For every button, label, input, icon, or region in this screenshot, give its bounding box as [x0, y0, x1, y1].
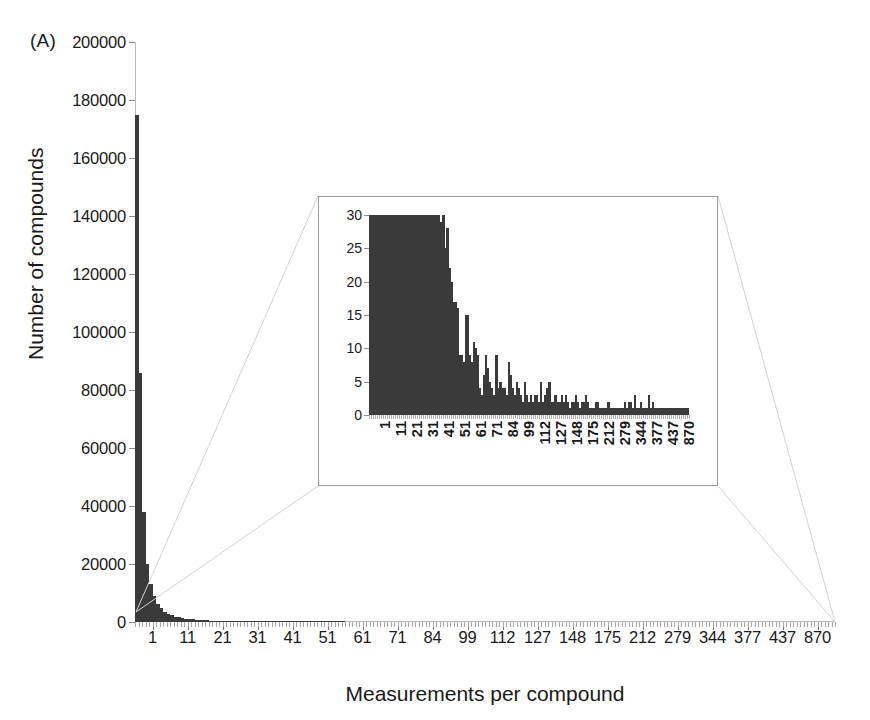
main-x-tick-label: 41	[284, 628, 302, 647]
main-x-tick-minor	[650, 622, 651, 627]
main-y-tick-label: 160000	[72, 149, 126, 168]
inset-x-tick-minor	[507, 415, 508, 419]
inset-x-tick-minor	[491, 415, 492, 419]
inset-x-tick-minor	[685, 415, 686, 419]
inset-x-tick-minor	[435, 415, 436, 419]
inset-x-tick-minor	[457, 415, 458, 419]
inset-x-tick-minor	[589, 415, 590, 419]
main-x-tick-minor	[429, 622, 430, 627]
main-x-tick-minor	[310, 622, 311, 627]
main-x-tick-minor	[167, 622, 168, 627]
main-y-tick	[129, 506, 135, 507]
inset-x-tick-minor	[633, 415, 634, 419]
inset-x-tick-minor	[577, 415, 578, 419]
main-x-tick-minor	[510, 622, 511, 627]
inset-x-tick-label: 61	[473, 421, 489, 437]
main-x-tick-minor	[401, 622, 402, 627]
inset-x-tick-minor	[519, 415, 520, 419]
inset-x-tick-minor	[641, 415, 642, 419]
main-x-tick-label: 99	[459, 628, 477, 647]
main-x-tick-minor	[692, 622, 693, 627]
main-x-tick-minor	[744, 622, 745, 627]
inset-x-tick-minor	[571, 415, 572, 419]
main-x-tick-minor	[646, 622, 647, 627]
main-x-tick-minor	[436, 622, 437, 627]
inset-x-tick-minor	[421, 415, 422, 419]
main-x-tick-minor	[464, 622, 465, 627]
main-x-tick-label: 21	[214, 628, 232, 647]
main-x-tick-minor	[615, 622, 616, 627]
inset-x-tick-minor	[527, 415, 528, 419]
inset-x-tick-label: 99	[521, 421, 537, 437]
main-y-tick-label: 180000	[72, 91, 126, 110]
main-x-tick-minor	[608, 622, 609, 627]
main-x-tick-minor	[422, 622, 423, 627]
main-x-tick-minor	[601, 622, 602, 627]
inset-x-tick-label: 1	[377, 421, 393, 429]
inset-x-tick-minor	[409, 415, 410, 419]
inset-bars-group	[369, 215, 689, 415]
main-x-tick-minor	[790, 622, 791, 627]
inset-x-tick-minor	[639, 415, 640, 419]
inset-x-tick-minor	[531, 415, 532, 419]
main-x-tick-minor	[534, 622, 535, 627]
main-y-axis-title: Number of compounds	[24, 148, 48, 360]
inset-x-tick-label: 41	[441, 421, 457, 437]
inset-x-tick-label: 437	[665, 421, 681, 445]
main-x-tick-minor	[268, 622, 269, 627]
main-y-tick	[129, 216, 135, 217]
inset-y-tick	[364, 348, 369, 349]
inset-x-tick-minor	[565, 415, 566, 419]
inset-x-tick-minor	[587, 415, 588, 419]
main-x-tick-minor	[580, 622, 581, 627]
inset-y-tick	[364, 215, 369, 216]
main-x-tick-minor	[758, 622, 759, 627]
inset-x-tick-minor	[549, 415, 550, 419]
main-x-tick-minor	[174, 622, 175, 627]
main-x-tick-minor	[471, 622, 472, 627]
inset-x-tick-minor	[573, 415, 574, 419]
inset-x-tick-minor	[481, 415, 482, 419]
inset-x-tick-minor	[453, 415, 454, 419]
main-y-tick-label: 200000	[72, 33, 126, 52]
inset-x-tick-minor	[381, 415, 382, 419]
inset-y-tick-label: 0	[354, 407, 362, 423]
inset-x-tick-minor	[397, 415, 398, 419]
main-x-tick-minor	[555, 622, 556, 627]
main-x-tick-minor	[296, 622, 297, 627]
main-x-tick-label: 31	[249, 628, 267, 647]
main-x-tick-minor	[681, 622, 682, 627]
main-x-tick-minor	[237, 622, 238, 627]
inset-x-tick-minor	[537, 415, 538, 419]
inset-x-tick-minor	[635, 415, 636, 419]
inset-x-tick-minor	[511, 415, 512, 419]
main-y-tick-label: 0	[117, 613, 126, 632]
main-x-tick-minor	[349, 622, 350, 627]
inset-x-tick-minor	[663, 415, 664, 419]
inset-x-tick-minor	[585, 415, 586, 419]
main-x-tick-minor	[741, 622, 742, 627]
main-x-tick-minor	[433, 622, 434, 627]
main-x-tick-label: 377	[734, 628, 761, 647]
inset-x-tick-minor	[375, 415, 376, 419]
inset-x-tick-minor	[525, 415, 526, 419]
main-x-tick-label: 1	[148, 628, 157, 647]
main-x-tick-minor	[762, 622, 763, 627]
main-x-tick-minor	[811, 622, 812, 627]
main-y-tick-label: 20000	[81, 555, 126, 574]
inset-x-tick-minor	[371, 415, 372, 419]
main-x-tick-label: 71	[389, 628, 407, 647]
inset-x-tick-minor	[469, 415, 470, 419]
inset-x-tick-minor	[459, 415, 460, 419]
inset-x-tick-minor	[671, 415, 672, 419]
main-x-tick-minor	[618, 622, 619, 627]
inset-bar	[687, 408, 689, 415]
inset-x-tick-minor	[679, 415, 680, 419]
main-y-tick-label: 80000	[81, 381, 126, 400]
main-x-tick-minor	[387, 622, 388, 627]
main-x-tick-label: 175	[594, 628, 621, 647]
main-x-tick-minor	[293, 622, 294, 627]
inset-x-tick-minor	[451, 415, 452, 419]
main-x-tick-label: 148	[559, 628, 586, 647]
main-x-tick-minor	[639, 622, 640, 627]
